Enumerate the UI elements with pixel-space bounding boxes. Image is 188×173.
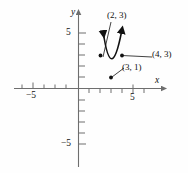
x-tick-label-5: 5 [130, 93, 135, 103]
data-point [99, 54, 103, 58]
point-label-2-3: (2, 3) [107, 11, 127, 20]
graph-figure: y x 5 −5 −5 5 (2, 3) (4, 3) (3, 1) [0, 0, 188, 173]
point-label-3-1: (3, 1) [122, 63, 142, 72]
y-axis [79, 14, 87, 167]
point-label-4-3: (4, 3) [152, 50, 172, 59]
x-tick-label-neg5: −5 [26, 91, 36, 101]
data-point [120, 54, 124, 58]
data-point [109, 76, 113, 80]
y-tick-label-neg5: −5 [61, 139, 71, 149]
y-tick-label-5: 5 [66, 28, 71, 38]
data-points [99, 54, 124, 80]
coordinate-plane [0, 0, 188, 173]
x-axis-label: x [155, 76, 159, 86]
x-axis [14, 83, 162, 94]
y-axis-label: y [71, 8, 75, 18]
